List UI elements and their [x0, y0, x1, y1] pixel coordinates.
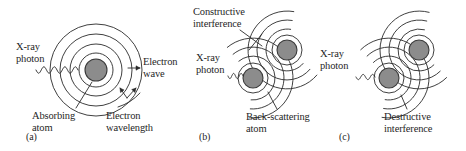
absorbing-atom-c: [374, 63, 404, 93]
xray-photon-wave-c: [356, 74, 375, 79]
panel-caption-b: (b): [199, 131, 210, 143]
absorbing-atom-core: [85, 59, 107, 81]
exafs-scattering-figure: X-ray photon Electron wave Absorbing ato…: [0, 0, 466, 151]
absorbing-atom: [79, 53, 113, 87]
destructive-interference-leader: [401, 95, 407, 109]
panel-caption-a: (a): [26, 131, 37, 143]
electron-wavelength-arrow-1-head: [120, 88, 124, 93]
xray-photon-label-a: X-ray photon: [16, 41, 44, 64]
back-scattering-atom-label: Back-scattering atom: [246, 111, 310, 134]
electron-wave-label-a: Electron wave: [143, 56, 177, 79]
back-scattering-atom-c: [404, 35, 434, 65]
electron-wavelength-label-a: Electron wavelength: [106, 110, 153, 133]
electron-wave-arrow-head: [136, 66, 140, 70]
constructive-interference-label: Constructive interference: [193, 6, 245, 29]
absorbing-atom-b-core: [243, 68, 263, 88]
xray-photon-label-b: X-ray photon: [196, 52, 224, 75]
xray-photon-wave-b: [228, 73, 243, 78]
back-scattering-atom-b-core: [277, 40, 297, 60]
absorbing-atom-b: [238, 63, 268, 93]
destructive-interference-label: Destructive interference: [384, 111, 432, 134]
back-scattering-atom-c-core: [409, 40, 429, 60]
absorbing-atom-c-core: [379, 68, 399, 88]
xray-photon-wave-a: [36, 67, 78, 73]
absorbing-atom-label-a: Absorbing atom: [32, 110, 75, 133]
back-scattering-atom-leader: [268, 92, 277, 109]
panel-caption-c: (c): [339, 131, 350, 143]
back-scattering-atom-b: [272, 35, 302, 65]
xray-photon-label-c: X-ray photon: [320, 48, 348, 71]
